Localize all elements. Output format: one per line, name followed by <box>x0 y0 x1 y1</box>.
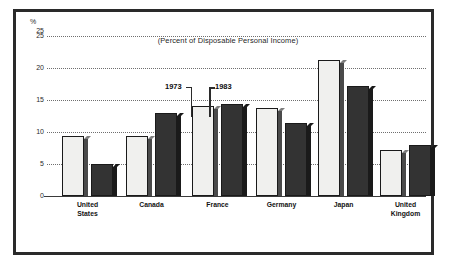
category-label-line: United <box>56 201 120 210</box>
gridline-25 <box>47 36 426 37</box>
bar-side-shadow <box>278 111 282 196</box>
y-tick-10: 10 <box>20 128 44 136</box>
bar-face <box>62 136 84 196</box>
category-label-line: Canada <box>120 201 184 210</box>
category-label-france: France <box>186 201 250 210</box>
bar-face <box>192 106 214 196</box>
plot-area: % (Percent of Disposable Personal Income… <box>0 0 456 275</box>
bar-japan-1973 <box>318 60 340 196</box>
bar-face <box>256 108 278 196</box>
y-axis-unit-label: % <box>30 18 36 26</box>
bar-side-shadow <box>84 139 88 196</box>
y-tick-label: 0 <box>22 192 44 200</box>
bar-japan-1983 <box>347 86 369 196</box>
bar-face <box>285 123 307 196</box>
bar-face <box>380 150 402 196</box>
bar-face <box>318 60 340 196</box>
bar-france-1973 <box>192 106 214 196</box>
y-tick-5: 5 <box>20 160 44 168</box>
legend-label-1973: 1973 <box>165 82 182 91</box>
y-tick-label: 15 <box>22 96 44 104</box>
y-tick-label: 10 <box>22 128 44 136</box>
bar-face <box>126 136 148 196</box>
bar-side-shadow <box>177 116 181 196</box>
legend-label-1983: 1983 <box>215 82 232 91</box>
bar-united-states-1973 <box>62 136 84 196</box>
category-label-canada: Canada <box>120 201 184 210</box>
bar-united-kingdom-1983 <box>409 145 431 196</box>
y-tick-25: 25 <box>20 27 44 35</box>
gridline-20 <box>47 68 426 69</box>
legend-leader-elbow-1973 <box>186 87 192 88</box>
chart-title: (Percent of Disposable Personal Income) <box>0 36 456 45</box>
bar-france-1983 <box>221 104 243 196</box>
bar-side-shadow <box>243 107 247 196</box>
bar-canada-1983 <box>155 113 177 196</box>
bar-side-shadow <box>340 63 344 196</box>
bar-face <box>91 164 113 196</box>
legend-leader-line-1983 <box>209 87 211 117</box>
bar-germany-1983 <box>285 123 307 196</box>
bar-face <box>155 113 177 196</box>
bar-canada-1973 <box>126 136 148 196</box>
bar-side-shadow <box>214 109 218 196</box>
category-label-japan: Japan <box>312 201 376 210</box>
y-tick-20: 20 <box>20 64 44 72</box>
bar-side-shadow <box>113 167 117 196</box>
category-label-united-kingdom: UnitedKingdom <box>374 201 438 218</box>
bar-side-shadow <box>402 153 406 196</box>
category-label-line: States <box>56 210 120 219</box>
category-label-germany: Germany <box>250 201 314 210</box>
x-axis-baseline <box>44 196 426 197</box>
bar-face <box>409 145 431 196</box>
bar-side-shadow <box>431 148 435 196</box>
bar-united-kingdom-1973 <box>380 150 402 196</box>
category-label-line: Kingdom <box>374 210 438 219</box>
category-label-line: Germany <box>250 201 314 210</box>
legend-leader-line-1973 <box>191 87 192 117</box>
legend-leader-elbow-1983 <box>209 87 215 89</box>
bar-united-states-1983 <box>91 164 113 196</box>
category-label-line: France <box>186 201 250 210</box>
y-tick-label: 5 <box>22 160 44 168</box>
bar-side-shadow <box>369 89 373 196</box>
bar-face <box>221 104 243 196</box>
chart-figure: % (Percent of Disposable Personal Income… <box>0 0 456 275</box>
y-tick-15: 15 <box>20 96 44 104</box>
category-label-line: United <box>374 201 438 210</box>
bar-germany-1973 <box>256 108 278 196</box>
bar-side-shadow <box>148 139 152 196</box>
y-tick-0: 0 <box>20 192 44 200</box>
category-label-line: Japan <box>312 201 376 210</box>
y-tick-label: 20 <box>22 64 44 72</box>
bar-face <box>347 86 369 196</box>
y-tick-label: 25 <box>22 27 44 35</box>
category-label-united-states: UnitedStates <box>56 201 120 218</box>
bar-side-shadow <box>307 126 311 196</box>
